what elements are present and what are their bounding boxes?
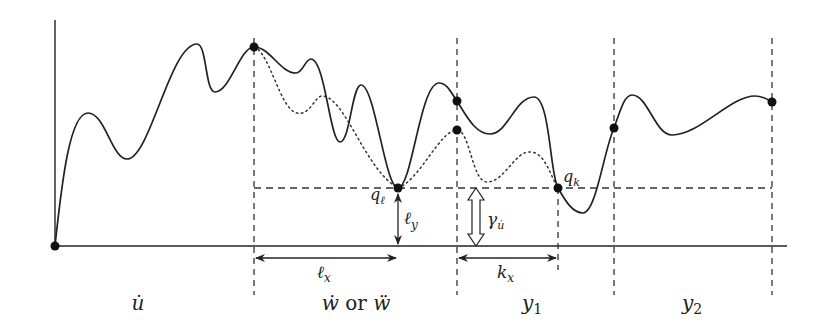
label-l-x: ℓx <box>317 262 331 285</box>
point-q-k <box>554 184 563 193</box>
main-curve <box>55 44 772 246</box>
point-end <box>768 98 777 107</box>
label-q-l: qℓ <box>370 185 385 207</box>
segment-dividers <box>254 38 772 295</box>
curve-diagram: qℓ qk ℓy ℓx kx γu̇ u̇ ẇ or ẅ y1 y2 <box>0 0 821 333</box>
point-divider-3 <box>610 124 619 133</box>
dotted-curve-1 <box>254 47 398 188</box>
segment-label-u-dot: u̇ <box>132 291 145 315</box>
point-start-segment-2 <box>250 43 259 52</box>
point-origin <box>51 242 60 251</box>
label-l-y: ℓy <box>404 208 418 232</box>
gamma-hollow-arrow <box>468 188 484 246</box>
point-q-l <box>394 184 403 193</box>
dotted-curve-2 <box>398 130 558 188</box>
point-solid-divider-2 <box>453 97 462 106</box>
point-dotted-divider-2 <box>453 126 462 135</box>
segment-label-y2: y2 <box>681 291 702 317</box>
segment-label-y1: y1 <box>521 291 542 317</box>
label-q-k: qk <box>563 167 580 189</box>
label-gamma: γu̇ <box>487 209 504 232</box>
label-k-x: kx <box>497 262 514 285</box>
segment-label-w-dot-or-w-ddot: ẇ or ẅ <box>322 291 391 315</box>
